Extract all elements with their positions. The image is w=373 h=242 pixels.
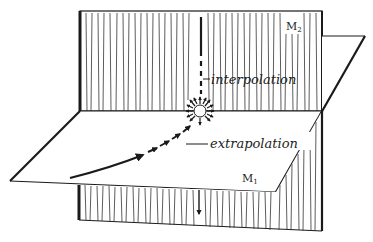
interpolation-label: interpolation	[211, 72, 296, 87]
manifold-diagram: interpolation extrapolation M2 M1	[0, 0, 373, 242]
diagram-canvas: interpolation extrapolation M2 M1	[0, 0, 373, 242]
extrapolation-label: extrapolation	[210, 136, 298, 151]
